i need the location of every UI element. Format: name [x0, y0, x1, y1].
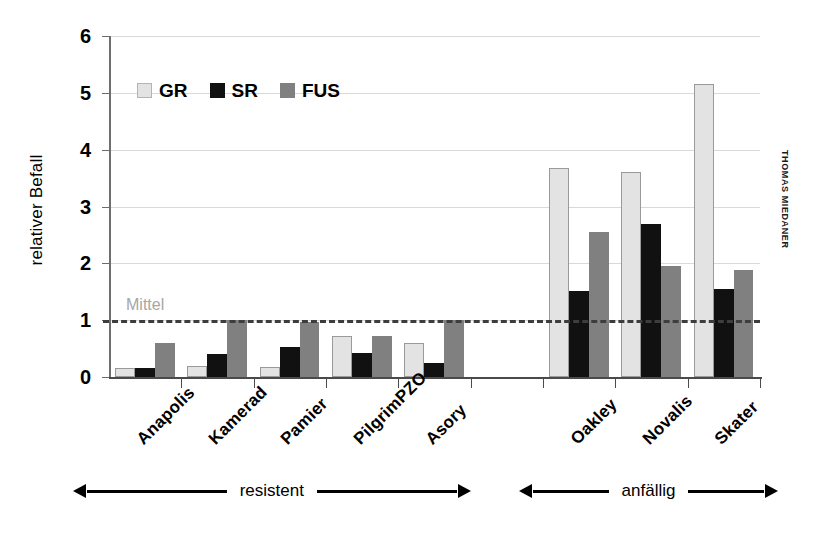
category-label-novalis: Novalis — [639, 391, 697, 449]
bar-sr-kamerad — [207, 354, 227, 377]
bar-sr-oakley — [569, 291, 589, 377]
category-label-kamerad: Kamerad — [205, 383, 272, 450]
bar-fus-asory — [444, 320, 464, 377]
bar-gr-kamerad — [187, 366, 207, 377]
x-axis-tick-mark — [471, 379, 472, 388]
arrow-right-icon — [688, 490, 764, 493]
bar-chart-figure: relativer Befall 0123456 GR SR FUS Mitte… — [0, 0, 817, 533]
y-axis-tick-mark — [102, 263, 109, 264]
y-axis-tick-label: 4 — [65, 140, 91, 160]
bar-fus-oakley — [589, 232, 609, 377]
x-axis-tick-mark — [615, 379, 616, 388]
y-axis-tick-mark — [102, 93, 109, 94]
y-axis-tick-mark — [102, 377, 109, 378]
mittel-reference-line — [103, 320, 760, 323]
y-axis-tick-label: 0 — [65, 367, 91, 387]
x-axis-tick-mark — [760, 379, 761, 388]
bar-gr-oakley — [549, 168, 569, 377]
bar-gr-pamier — [260, 367, 280, 377]
bar-fus-pamier — [300, 322, 320, 377]
bar-group — [181, 36, 253, 377]
y-axis-title: relativer Befall — [27, 100, 47, 320]
bar-sr-asory — [424, 363, 444, 377]
category-label-pilgrimpzo: PilgrimPZO — [350, 368, 431, 449]
bar-group — [398, 36, 470, 377]
y-axis-tick-mark — [102, 150, 109, 151]
bar-fus-skater — [734, 270, 754, 377]
x-axis-line — [109, 377, 762, 379]
category-label-skater: Skater — [711, 397, 763, 449]
bar-gr-novalis — [621, 172, 641, 377]
range-annotation-anfaellig: anfällig — [533, 478, 764, 504]
bar-group — [109, 36, 181, 377]
bar-gr-pilgrimpzo — [332, 336, 352, 377]
bar-sr-novalis — [641, 224, 661, 377]
range-annotation-resistent: resistent — [87, 478, 457, 504]
bar-sr-pamier — [280, 347, 300, 377]
mittel-reference-label: Mittel — [126, 296, 164, 314]
plot-area — [109, 36, 760, 377]
category-label-anapolis: Anapolis — [133, 383, 199, 449]
bar-fus-anapolis — [155, 343, 175, 377]
y-axis-tick-mark — [102, 36, 109, 37]
category-label-pamier: Pamier — [277, 394, 332, 449]
bar-fus-pilgrimpzo — [372, 336, 392, 377]
bar-gr-anapolis — [115, 368, 135, 377]
bar-sr-skater — [714, 289, 734, 377]
bar-group — [543, 36, 615, 377]
credit-text: THOMAS MIEDANER — [780, 150, 790, 249]
arrow-left-icon — [87, 490, 227, 493]
bar-fus-kamerad — [227, 320, 247, 377]
bar-sr-anapolis — [135, 368, 155, 377]
bar-group — [326, 36, 398, 377]
x-axis-tick-mark — [543, 379, 544, 388]
y-axis-tick-label: 2 — [65, 253, 91, 273]
bar-group — [615, 36, 687, 377]
x-axis-tick-mark — [326, 379, 327, 388]
y-axis-tick-label: 6 — [65, 26, 91, 46]
arrow-left-icon — [533, 490, 609, 493]
range-label-anfaellig: anfällig — [609, 481, 689, 501]
x-axis-tick-mark — [688, 379, 689, 388]
arrow-right-icon — [317, 490, 457, 493]
y-axis-tick-mark — [102, 207, 109, 208]
y-axis-tick-label: 3 — [65, 197, 91, 217]
bar-group — [254, 36, 326, 377]
category-label-asory: Asory — [422, 400, 471, 449]
bar-group — [688, 36, 760, 377]
range-label-resistent: resistent — [227, 481, 317, 501]
category-label-oakley: Oakley — [567, 395, 621, 449]
y-axis-tick-label: 1 — [65, 310, 91, 330]
bar-gr-skater — [694, 84, 714, 377]
bar-sr-pilgrimpzo — [352, 353, 372, 377]
y-axis-tick-label: 5 — [65, 83, 91, 103]
